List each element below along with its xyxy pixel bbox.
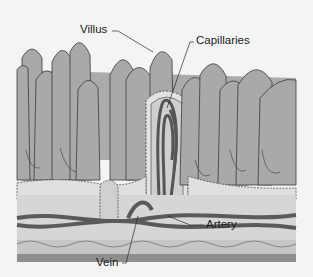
gland bbox=[100, 180, 118, 220]
villus-label: Villus bbox=[80, 24, 107, 36]
villus-leader bbox=[112, 31, 153, 52]
artery-label: Artery bbox=[206, 219, 237, 231]
villus-diagram bbox=[0, 0, 313, 277]
vein-label: Vein bbox=[96, 257, 118, 269]
capillaries-label: Capillaries bbox=[196, 35, 250, 47]
villi-left bbox=[17, 43, 152, 180]
submucosa bbox=[17, 195, 296, 245]
